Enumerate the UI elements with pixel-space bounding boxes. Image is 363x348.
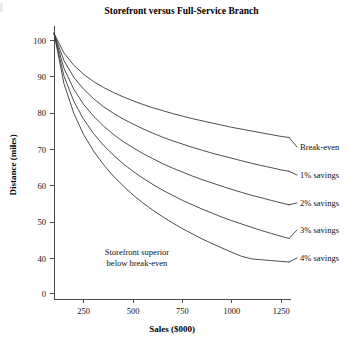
x-tick-label: 250 xyxy=(77,306,90,316)
leader-line-5 xyxy=(289,258,297,262)
y-axis-ticks: 0405060708090100 xyxy=(33,36,54,299)
leader-line-2 xyxy=(289,171,297,175)
curve-group xyxy=(54,33,289,262)
x-axis-ticks: 25050075010001250 xyxy=(77,299,289,316)
y-axis-title: Distance (miles) xyxy=(8,134,18,195)
curve-4 xyxy=(54,33,289,238)
curve-2 xyxy=(54,33,289,171)
x-tick-label: 1000 xyxy=(223,306,240,316)
series-label-2: 1% savings xyxy=(300,170,339,180)
x-axis-title: Sales ($000) xyxy=(149,324,195,334)
curve-3 xyxy=(54,33,289,205)
scan-artifact xyxy=(0,3,3,12)
series-label-3: 2% savings xyxy=(300,198,339,208)
series-label-5: 4% savings xyxy=(300,253,339,263)
curve-1 xyxy=(54,33,289,137)
y-tick-label: 90 xyxy=(38,72,47,82)
storefront-superior-note-line-1: Storefront superior xyxy=(105,247,170,257)
leader-line-3 xyxy=(289,203,297,205)
y-tick-label: 60 xyxy=(38,181,47,191)
series-label-group: Break-even1% savings2% savings3% savings… xyxy=(300,142,340,263)
chart-title: Storefront versus Full-Service Branch xyxy=(104,6,259,16)
series-label-1: Break-even xyxy=(300,142,340,152)
storefront-superior-note-line-2: below break-even xyxy=(107,258,168,268)
x-tick-label: 1250 xyxy=(273,306,290,316)
x-tick-label: 750 xyxy=(176,306,189,316)
series-label-4: 3% savings xyxy=(300,225,339,235)
leader-line-1 xyxy=(289,138,297,147)
leader-line-4 xyxy=(289,230,297,239)
y-tick-label: 70 xyxy=(38,145,47,155)
y-tick-label: 50 xyxy=(38,217,47,227)
annotation-group: Storefront superiorbelow break-even xyxy=(105,247,170,268)
y-tick-label: 40 xyxy=(38,254,47,264)
y-tick-label: 0 xyxy=(42,289,46,299)
y-tick-label: 100 xyxy=(33,36,46,46)
y-tick-label: 80 xyxy=(38,108,47,118)
chart-container: Storefront versus Full-Service Branch Di… xyxy=(0,0,363,348)
storefront-vs-branch-chart: Storefront versus Full-Service Branch Di… xyxy=(0,0,363,348)
leader-line-group xyxy=(289,138,297,262)
x-tick-label: 500 xyxy=(127,306,140,316)
